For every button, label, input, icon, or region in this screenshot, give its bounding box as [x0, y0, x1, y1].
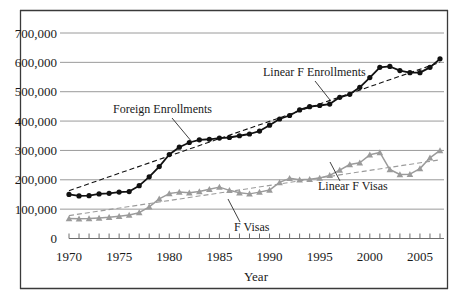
data-point-circle	[427, 65, 432, 70]
x-axis-tick-label: 2005	[407, 249, 433, 264]
x-axis-tick-labels: 19701975198019851990199520002005	[56, 249, 433, 264]
annotation-label-foreign-enrollments: Foreign Enrollments	[113, 102, 212, 116]
data-point-triangle	[156, 196, 163, 202]
data-point-triangle	[387, 166, 394, 172]
data-point-circle	[197, 137, 202, 142]
y-axis-tick-label: 0	[51, 231, 58, 246]
data-point-circle	[147, 174, 152, 179]
data-point-circle	[237, 133, 242, 138]
data-point-circle	[317, 103, 322, 108]
chart-figure: 0100,000200,000300,000400,000500,000600,…	[0, 0, 456, 297]
annotation-leader-linear-f-enrollments	[315, 81, 330, 100]
data-point-circle	[86, 193, 91, 198]
annotation-leader-foreign-enrollments	[172, 118, 192, 142]
data-point-circle	[407, 70, 412, 75]
data-point-circle	[227, 135, 232, 140]
x-axis-tick-label: 2000	[357, 249, 383, 264]
x-axis-tick-label: 1975	[106, 249, 132, 264]
x-axis-ticks	[69, 234, 440, 239]
y-axis-tick-label: 700,000	[15, 26, 57, 41]
data-point-triangle	[336, 167, 343, 173]
data-point-circle	[107, 191, 112, 196]
y-axis-tick-label: 200,000	[15, 172, 57, 187]
data-point-circle	[367, 75, 372, 80]
y-axis-tick-label: 500,000	[15, 84, 57, 99]
series-line-foreign-enrollments	[69, 59, 440, 196]
data-point-circle	[327, 101, 332, 106]
data-point-circle	[157, 164, 162, 169]
data-point-circle	[207, 137, 212, 142]
data-point-circle	[357, 85, 362, 90]
y-axis-tick-label: 100,000	[15, 202, 57, 217]
data-point-circle	[277, 116, 282, 121]
chart-container: 0100,000200,000300,000400,000500,000600,…	[0, 0, 456, 297]
data-point-circle	[167, 152, 172, 157]
data-point-triangle	[136, 209, 143, 215]
y-axis-tick-label: 600,000	[15, 55, 57, 70]
data-point-triangle	[326, 172, 333, 178]
annotation-label-linear-f-enrollments: Linear F Enrollments	[263, 65, 366, 79]
annotation-label-linear-f-visas: Linear F Visas	[318, 179, 388, 193]
x-axis-tick-label: 1985	[206, 249, 232, 264]
series-markers-foreign-enrollments	[66, 56, 442, 198]
x-axis-title: Year	[244, 269, 269, 284]
data-point-circle	[76, 193, 81, 198]
x-axis-tick-label: 1995	[307, 249, 333, 264]
data-point-circle	[287, 113, 292, 118]
data-point-circle	[267, 123, 272, 128]
y-axis-tick-label: 300,000	[15, 143, 57, 158]
data-point-circle	[137, 183, 142, 188]
data-point-circle	[387, 64, 392, 69]
data-point-circle	[247, 131, 252, 136]
data-point-circle	[117, 190, 122, 195]
data-point-circle	[337, 95, 342, 100]
data-point-circle	[347, 92, 352, 97]
y-axis-tick-label: 400,000	[15, 114, 57, 129]
data-point-circle	[377, 65, 382, 70]
x-axis-tick-label: 1980	[156, 249, 182, 264]
data-point-circle	[96, 191, 101, 196]
data-point-triangle	[216, 184, 223, 190]
data-series-layer	[66, 56, 444, 221]
annotation-label-f-visas: F Visas	[234, 220, 270, 234]
chart-frame	[20, 10, 448, 289]
trendline-linear-f-enrollments	[69, 62, 440, 190]
data-point-circle	[437, 56, 442, 61]
data-point-circle	[127, 189, 132, 194]
data-point-circle	[217, 135, 222, 140]
data-point-circle	[397, 68, 402, 73]
x-axis-tick-label: 1970	[56, 249, 82, 264]
data-point-circle	[177, 145, 182, 150]
data-point-circle	[297, 107, 302, 112]
x-axis-tick-label: 1990	[257, 249, 283, 264]
data-point-circle	[66, 192, 71, 197]
data-point-circle	[257, 128, 262, 133]
data-point-circle	[417, 70, 422, 75]
annotation-leader-f-visas	[228, 199, 240, 222]
data-point-circle	[307, 104, 312, 109]
